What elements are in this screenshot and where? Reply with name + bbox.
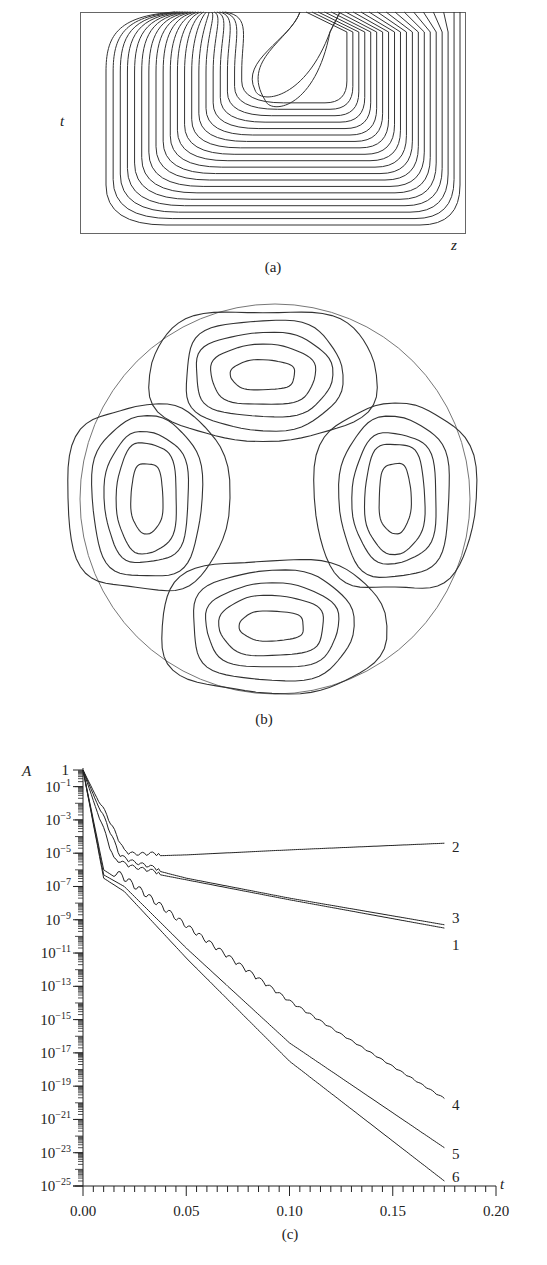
panel-c-xlabel: t	[500, 1176, 505, 1192]
panel-c-line-chart: 110−110−310−510−710−910−1110−1310−1510−1…	[0, 0, 547, 1265]
series-2-label: 2	[452, 839, 460, 855]
y-tick-label: 1	[62, 762, 70, 778]
series-6-label: 6	[452, 1169, 460, 1185]
panel-c-x-tick-labels: 0.000.050.100.150.20	[70, 1203, 509, 1219]
panel-c-caption: (c)	[260, 1226, 320, 1243]
y-tick-label: 10−19	[40, 1076, 71, 1094]
x-tick-label: 0.15	[380, 1203, 406, 1219]
series-2-line	[83, 770, 444, 856]
series-5-label: 5	[452, 1146, 460, 1162]
y-tick-label: 10−13	[40, 976, 71, 994]
series-3-line	[83, 770, 444, 925]
y-tick-label: 10−23	[40, 1143, 71, 1161]
x-tick-label: 0.05	[173, 1203, 199, 1219]
y-tick-label: 10−7	[45, 876, 71, 894]
y-tick-label: 10−17	[40, 1043, 71, 1061]
series-1-line	[83, 770, 444, 928]
x-tick-label: 0.20	[483, 1203, 509, 1219]
y-tick-label: 10−11	[41, 943, 71, 961]
series-1-label: 1	[452, 937, 460, 953]
y-tick-label: 10−15	[40, 1010, 71, 1028]
series-6-line	[83, 770, 444, 1181]
series-4-label: 4	[452, 1097, 460, 1113]
y-tick-label: 10−21	[40, 1109, 71, 1127]
series-3-label: 3	[452, 910, 460, 926]
panel-c-series	[83, 770, 444, 1181]
series-5-line	[83, 770, 444, 1148]
panel-c-ylabel: A	[21, 763, 32, 779]
y-tick-label: 10−5	[45, 843, 71, 861]
y-tick-label: 10−1	[45, 777, 71, 795]
x-tick-label: 0.10	[276, 1203, 302, 1219]
y-tick-label: 10−25	[40, 1176, 71, 1194]
y-tick-label: 10−9	[45, 910, 71, 928]
x-tick-label: 0.00	[70, 1203, 96, 1219]
series-4-line	[83, 770, 444, 1099]
y-tick-label: 10−3	[45, 810, 71, 828]
panel-c-series-labels: 123456	[452, 839, 460, 1185]
panel-c-axes	[73, 768, 496, 1196]
panel-c-y-tick-labels: 110−110−310−510−710−910−1110−1310−1510−1…	[40, 762, 71, 1194]
